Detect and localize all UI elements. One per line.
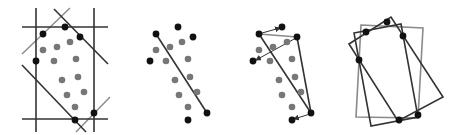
hull-point <box>153 31 160 38</box>
interior-point <box>289 56 296 63</box>
interior-point <box>176 92 183 99</box>
interior-point <box>54 44 61 51</box>
interior-point <box>167 44 174 51</box>
interior-point <box>267 58 274 65</box>
hull-point <box>185 117 192 124</box>
hull-point <box>77 34 84 41</box>
interior-point <box>256 47 263 54</box>
interior-point <box>81 89 88 96</box>
interior-point <box>153 47 160 54</box>
hull-point <box>308 110 315 117</box>
interior-point <box>292 74 299 81</box>
diagram-canvas <box>0 0 463 135</box>
caliper-line <box>156 34 207 113</box>
hull-point <box>415 112 422 119</box>
interior-point <box>185 56 192 63</box>
interior-point <box>185 104 192 111</box>
hull-point <box>33 58 40 65</box>
panel-3 <box>250 24 315 124</box>
interior-point <box>187 74 194 81</box>
hull-point <box>147 58 154 65</box>
interior-point <box>40 47 47 54</box>
hull-point <box>91 110 98 117</box>
hull-point <box>384 19 391 26</box>
figure <box>0 0 463 135</box>
interior-point <box>172 77 179 84</box>
interior-point <box>284 39 291 46</box>
interior-point <box>67 39 74 46</box>
interior-point <box>51 58 58 65</box>
interior-point <box>72 104 79 111</box>
interior-point <box>64 92 71 99</box>
interior-point <box>59 77 66 84</box>
panel-2 <box>147 24 211 124</box>
interior-point <box>163 58 170 65</box>
hull-point <box>396 117 403 124</box>
panel-1 <box>22 8 110 132</box>
hull-point <box>62 24 69 31</box>
interior-point <box>75 74 82 81</box>
interior-point <box>73 56 80 63</box>
panel-4 <box>349 17 443 126</box>
hull-point <box>279 24 286 31</box>
edge-vector-arrow <box>294 114 310 119</box>
hull-point <box>40 31 47 38</box>
hull-point <box>204 110 211 117</box>
hull-point <box>190 34 197 41</box>
interior-point <box>276 77 283 84</box>
edge-vector-arrow <box>262 28 280 33</box>
interior-point <box>298 89 305 96</box>
hull-point <box>356 57 363 64</box>
hull-point <box>289 117 296 124</box>
hull-point <box>72 117 79 124</box>
hull-point <box>250 58 257 65</box>
interior-point <box>270 44 277 51</box>
hull-point <box>363 29 370 36</box>
hull-point <box>256 31 263 38</box>
hull-point <box>400 33 407 40</box>
bounding-rect-rotated <box>354 24 418 126</box>
interior-point <box>289 104 296 111</box>
interior-point <box>179 39 186 46</box>
hull-point <box>175 24 182 31</box>
hull-point <box>294 34 301 41</box>
interior-point <box>194 89 201 96</box>
caliper-line <box>259 34 297 37</box>
interior-point <box>279 92 286 99</box>
caliper-line <box>22 8 70 54</box>
